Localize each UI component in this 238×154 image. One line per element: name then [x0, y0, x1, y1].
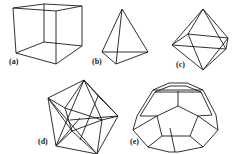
polyhedra-figure: [0, 0, 238, 154]
panel-label-c: (c): [176, 60, 185, 69]
panel-label-e: (e): [130, 137, 139, 146]
panel-label-b: (b): [92, 57, 102, 66]
panel-label-d: (d): [38, 137, 48, 146]
panel-label-a: (a): [9, 57, 18, 66]
cube-wireframe: [13, 4, 82, 64]
icosahedron-wireframe: [48, 80, 118, 154]
tetrahedron-wireframe: [102, 9, 148, 64]
dodecahedron-wireframe: [133, 83, 218, 152]
